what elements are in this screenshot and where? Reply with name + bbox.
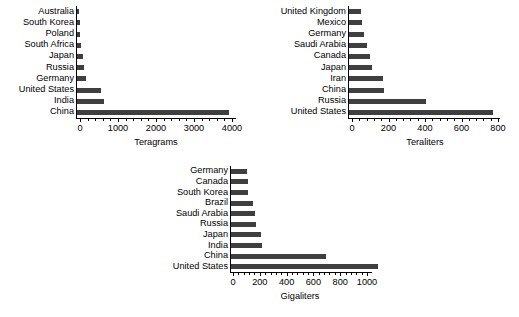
bar [231,232,261,237]
bar [349,110,493,115]
y-tick-label: United States [173,262,228,271]
y-tick-label: Russia [200,219,228,228]
x-major-tick [367,273,368,276]
bar [231,243,262,248]
y-tick-label: Germany [308,29,346,38]
x-major-tick [389,119,390,122]
y-tick-label: China [322,85,346,94]
x-major-tick [232,119,233,122]
x-axis-title: Teraliters [406,138,443,147]
bar [231,201,253,206]
x-minor-tick [186,119,187,121]
bar [77,65,84,70]
x-major-tick [352,119,353,122]
x-minor-tick [418,119,419,121]
x-minor-tick [319,273,320,275]
bar [77,32,80,37]
x-tick-label: 2000 [146,124,166,133]
x-major-tick [80,119,81,122]
bar [349,88,384,93]
x-minor-tick [329,273,330,275]
x-minor-tick [476,119,477,121]
x-minor-tick [271,273,272,275]
bar [77,20,80,25]
x-major-tick [156,119,157,122]
x-minor-tick [244,273,245,275]
y-axis-labels: AustraliaSouth KoreaPolandSouth AfricaJa… [0,6,74,118]
x-tick-label: 0 [349,124,354,133]
bar [231,211,255,216]
x-tick-label: 600 [454,124,469,133]
x-major-tick [233,273,234,276]
x-minor-tick [483,119,484,121]
x-axis [348,118,500,119]
x-minor-tick [367,119,368,121]
plot-area [230,166,372,272]
x-minor-tick [410,119,411,121]
x-major-tick [313,273,314,276]
x-axis-title: Teragrams [134,138,177,147]
x-minor-tick [454,119,455,121]
y-axis-labels: United KingdomMexicoGermanySaudi ArabiaC… [264,6,346,118]
x-minor-tick [164,119,165,121]
x-tick-label: 4000 [222,124,242,133]
x-minor-tick [238,273,239,275]
x-tick-label: 200 [252,278,267,287]
x-axis-title: Gigaliters [281,292,320,301]
x-minor-tick [265,273,266,275]
x-minor-tick [362,273,363,275]
x-tick-label: 800 [490,124,505,133]
x-minor-tick [447,119,448,121]
plot-area [76,6,236,118]
x-tick-label: 1000 [108,124,128,133]
x-tick-label: 3000 [184,124,204,133]
bar [231,254,326,259]
bar [231,264,378,269]
x-minor-tick [356,273,357,275]
bar [77,110,229,115]
y-tick-label: China [204,251,228,260]
y-tick-label: Canada [314,51,346,60]
x-major-tick [425,119,426,122]
x-minor-tick [126,119,127,121]
x-major-tick [498,119,499,122]
y-tick-label: India [208,241,228,250]
x-major-tick [340,273,341,276]
x-major-tick [462,119,463,122]
bar [77,43,81,48]
x-minor-tick [335,273,336,275]
x-tick-label: 1000 [357,278,377,287]
y-tick-label: South Korea [23,18,74,27]
y-tick-label: Japan [203,230,228,239]
bar [231,179,248,184]
y-tick-label: Germany [36,74,74,83]
x-minor-tick [249,273,250,275]
x-minor-tick [88,119,89,121]
x-minor-tick [209,119,210,121]
x-major-tick [260,273,261,276]
x-minor-tick [141,119,142,121]
y-tick-label: Russia [318,96,346,105]
y-tick-label: United States [19,85,74,94]
x-minor-tick [202,119,203,121]
x-minor-tick [292,273,293,275]
y-tick-label: Poland [45,29,74,38]
y-tick-label: Australia [38,7,74,16]
x-minor-tick [403,119,404,121]
x-minor-tick [432,119,433,121]
x-minor-tick [179,119,180,121]
x-tick-label: 400 [279,278,294,287]
bar [349,20,362,25]
x-minor-tick [110,119,111,121]
x-minor-tick [359,119,360,121]
y-tick-label: Saudi Arabia [294,40,346,49]
plot-area [348,6,500,118]
x-axis [230,272,372,273]
bar [231,190,248,195]
y-tick-label: United States [291,107,346,116]
x-minor-tick [133,119,134,121]
bar [77,76,86,81]
x-major-tick [287,273,288,276]
bar [77,9,79,14]
bar [77,88,101,93]
